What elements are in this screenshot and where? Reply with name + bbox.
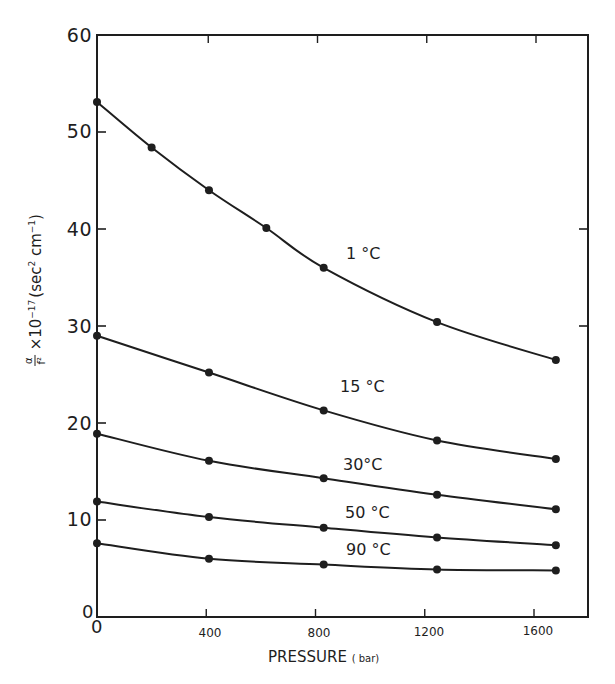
data-point xyxy=(205,555,213,563)
data-point xyxy=(433,436,441,444)
y-axis-unit: (sec2 cm−1) xyxy=(27,214,43,298)
ytick-50: 50 xyxy=(52,122,92,141)
data-point xyxy=(93,430,101,438)
data-point xyxy=(320,524,328,532)
data-point xyxy=(205,186,213,194)
xtick-800: 800 xyxy=(294,627,344,639)
data-point xyxy=(320,561,328,569)
data-point xyxy=(552,505,560,513)
data-point xyxy=(205,369,213,377)
data-point xyxy=(93,539,101,547)
series-curve-0 xyxy=(97,102,556,360)
y-axis-title: α f² ×10−17 (sec2 cm−1) xyxy=(24,214,47,366)
data-point xyxy=(148,144,156,152)
data-point xyxy=(433,318,441,326)
x-axis-unit: ( bar) xyxy=(352,653,380,664)
chart-plot xyxy=(0,0,615,684)
data-point xyxy=(262,224,270,232)
xtick-1600: 1600 xyxy=(513,625,563,637)
ytick-30: 30 xyxy=(52,317,92,336)
data-point xyxy=(552,356,560,364)
data-point xyxy=(205,457,213,465)
x-axis-title-text: PRESSURE xyxy=(268,648,347,666)
ytick-40: 40 xyxy=(52,220,92,239)
xtick-400: 400 xyxy=(185,627,235,639)
series-curve-1 xyxy=(97,336,556,459)
series-curves xyxy=(97,102,556,571)
series-label-50c: 50 °C xyxy=(345,505,390,521)
data-point xyxy=(93,98,101,106)
data-point xyxy=(93,332,101,340)
y-axis-fraction: α f² xyxy=(24,355,47,366)
y-axis-multiplier: ×10−17 xyxy=(27,300,43,351)
data-point xyxy=(552,455,560,463)
ytick-20: 20 xyxy=(52,414,92,433)
data-point xyxy=(433,533,441,541)
data-point xyxy=(320,406,328,414)
series-label-1c: 1 °C xyxy=(346,246,380,262)
data-point xyxy=(552,566,560,574)
data-point xyxy=(320,474,328,482)
data-point xyxy=(205,513,213,521)
series-curve-3 xyxy=(97,502,556,546)
y-axis-fraction-denominator: f² xyxy=(36,357,47,365)
y-axis-fraction-numerator: α xyxy=(24,355,36,366)
xtick-0: 0 xyxy=(91,618,102,636)
data-point xyxy=(93,498,101,506)
ytick-10: 10 xyxy=(52,510,92,529)
series-label-90c: 90 °C xyxy=(346,542,391,558)
xtick-1200: 1200 xyxy=(404,626,454,638)
ytick-60: 60 xyxy=(52,26,92,45)
series-curve-2 xyxy=(97,434,556,510)
series-label-30c: 30°C xyxy=(343,457,383,473)
data-point xyxy=(320,264,328,272)
data-point xyxy=(433,565,441,573)
series-label-15c: 15 °C xyxy=(340,379,385,395)
data-point xyxy=(552,541,560,549)
data-point xyxy=(433,491,441,499)
series-points xyxy=(93,98,560,575)
x-axis-title: PRESSURE ( bar) xyxy=(268,650,379,665)
